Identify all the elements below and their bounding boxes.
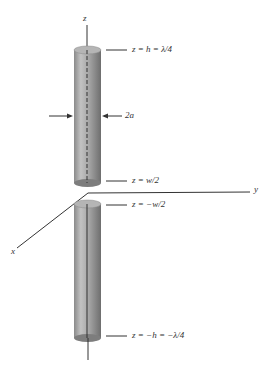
y-axis: [88, 192, 250, 193]
x-axis-label: x: [11, 246, 15, 256]
lower-arm: [74, 200, 101, 342]
top-label: z = h = λ/4: [132, 44, 172, 54]
z-axis-label: z: [83, 13, 87, 23]
radius-label: 2a: [125, 110, 134, 120]
gap-top-label: z = w/2: [132, 175, 159, 185]
dipole-diagram: [0, 0, 269, 371]
y-axis-label: y: [254, 184, 258, 194]
upper-arm: [74, 46, 101, 187]
gap-bottom-label: z = −w/2: [132, 199, 165, 209]
bottom-label: z = −h = −λ/4: [132, 330, 184, 340]
